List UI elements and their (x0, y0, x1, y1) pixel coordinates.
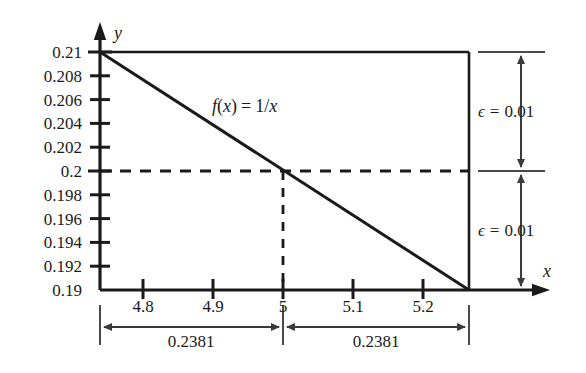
epsilon-upper-equals: = (490, 102, 500, 121)
y-tick-label-0.208: 0.208 (44, 68, 82, 85)
x-axis-group (100, 284, 550, 296)
x-tick-label-4.9: 4.9 (183, 298, 243, 315)
y-tick-label-0.196: 0.196 (44, 211, 82, 228)
y-tick-label-0.206: 0.206 (44, 92, 82, 109)
x-tick-label-5: 5 (253, 298, 313, 315)
epsilon-delta-figure: 0.21 0.208 0.206 0.204 0.202 0.2 0.198 0… (0, 0, 586, 373)
x-tick-label-4.8: 4.8 (113, 298, 173, 315)
y-tick-label-0.21: 0.21 (52, 44, 82, 61)
y-tick-label-0.2: 0.2 (61, 163, 82, 180)
delta-right-label: 0.2381 (326, 333, 426, 350)
function-label-denominator: x (269, 96, 277, 116)
figure-canvas (0, 0, 586, 373)
epsilon-lower-equals: = (490, 221, 500, 240)
y-axis-label: y (114, 24, 122, 42)
x-tick-label-5.2: 5.2 (393, 298, 453, 315)
epsilon-upper-label: ϵ=0.01 (478, 103, 534, 120)
function-label: f(x)=1/x (212, 97, 277, 115)
function-label-numerator: 1 (255, 96, 264, 116)
y-tick-label-0.202: 0.202 (44, 139, 82, 156)
y-tick-label-0.204: 0.204 (44, 115, 82, 132)
epsilon-lower-label: ϵ=0.01 (478, 222, 534, 239)
x-axis-label: x (543, 262, 551, 280)
function-label-equals: = (241, 96, 251, 116)
epsilon-lower-symbol: ϵ (478, 221, 485, 240)
epsilon-bracket-group (478, 52, 545, 286)
epsilon-upper-symbol: ϵ (478, 102, 485, 121)
epsilon-lower-value: 0.01 (504, 221, 534, 240)
delta-left-label: 0.2381 (141, 333, 241, 350)
x-tick-label-5.1: 5.1 (323, 298, 383, 315)
y-axis-group (94, 22, 106, 290)
function-label-variable: x (223, 96, 231, 116)
function-label-close-paren: ) (231, 96, 237, 116)
epsilon-upper-value: 0.01 (504, 102, 534, 121)
y-tick-label-0.19: 0.19 (52, 282, 82, 299)
y-tick-label-0.198: 0.198 (44, 187, 82, 204)
y-tick-label-0.192: 0.192 (44, 258, 82, 275)
y-tick-label-0.194: 0.194 (44, 234, 82, 251)
